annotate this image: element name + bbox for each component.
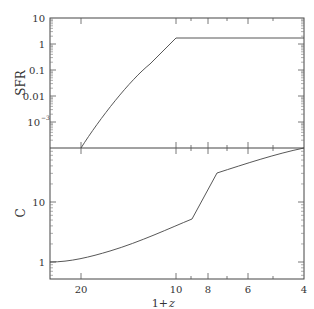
y-minor-ticks xyxy=(50,19,304,275)
ytick-0-1: 0.1 xyxy=(29,65,45,76)
ylabel-sfr: SFR xyxy=(14,69,28,96)
xtick-8: 8 xyxy=(205,284,211,295)
xlabel-var: z xyxy=(168,297,175,309)
sfr-curve xyxy=(81,38,304,148)
xtick-4: 4 xyxy=(301,284,307,295)
xtick-6: 6 xyxy=(245,284,251,295)
ytick-c-10: 10 xyxy=(32,197,45,208)
ytick-c-1: 1 xyxy=(39,257,45,268)
ytick-1: 1 xyxy=(39,39,45,50)
clumping-curve xyxy=(50,148,304,262)
xtick-20: 20 xyxy=(75,284,88,295)
xtick-10: 10 xyxy=(170,284,183,295)
ylabel-c: C xyxy=(14,208,28,217)
ytick-1e-3-exp: −3 xyxy=(41,114,50,121)
y-ticks xyxy=(50,44,304,262)
xlabel-prefix: 1+ xyxy=(152,297,168,309)
ytick-1e-3-base: 10 xyxy=(27,117,40,128)
chart: 10 1 0.1 0.01 10 −3 10 1 20 10 8 6 4 SFR… xyxy=(0,0,314,309)
ytick-10: 10 xyxy=(32,13,45,24)
